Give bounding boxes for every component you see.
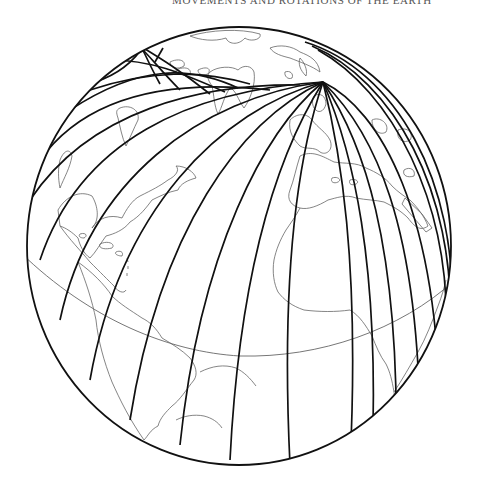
globe-outline (27, 27, 451, 465)
coastlines (58, 30, 446, 448)
globe-diagram (0, 0, 477, 488)
